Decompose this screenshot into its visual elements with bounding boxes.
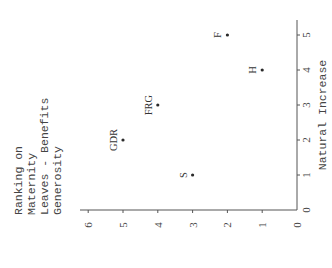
y-tick-label: 0 [291, 222, 303, 228]
x-tick-label: 3 [300, 102, 312, 108]
data-point-f [226, 33, 229, 36]
x-tick-label: 2 [300, 137, 312, 143]
data-point-frg [156, 103, 159, 106]
y-tick-label: 2 [221, 222, 233, 228]
x-tick-label: 1 [300, 172, 312, 178]
x-tick-label: 0 [300, 207, 312, 213]
data-point-h [261, 68, 264, 71]
y-tick-label: 5 [117, 222, 129, 228]
y-tick-label: 1 [256, 222, 268, 228]
y-axis-title-line: Leaves - Benefits [38, 98, 51, 215]
y-axis-title-line: Generosity [51, 146, 64, 215]
point-label-frg: FRG [143, 94, 154, 115]
x-tick-label: 5 [300, 32, 312, 38]
y-tick-label: 4 [152, 222, 164, 228]
data-point-s [191, 173, 194, 176]
y-axis-title-line: Ranking on [12, 146, 25, 215]
chart-labels: SGDRFRGHFNatural IncreaseRanking onMater… [12, 32, 329, 215]
x-tick-label: 4 [300, 67, 312, 73]
rotated-chart-figure: 0123450123456 SGDRFRGHFNatural IncreaseR… [0, 0, 332, 268]
x-axis-title: Natural Increase [316, 60, 329, 171]
data-point-gdr [121, 138, 124, 141]
point-label-gdr: GDR [108, 129, 119, 151]
scatter-chart: 0123450123456 SGDRFRGHFNatural IncreaseR… [0, 0, 332, 268]
y-tick-label: 3 [187, 222, 199, 228]
point-label-f: F [212, 32, 223, 38]
point-label-h: H [247, 66, 258, 74]
chart-axes [80, 20, 297, 210]
point-label-s: S [178, 172, 189, 178]
y-axis-title-line: Maternity [25, 153, 38, 215]
y-tick-label: 6 [82, 222, 94, 228]
